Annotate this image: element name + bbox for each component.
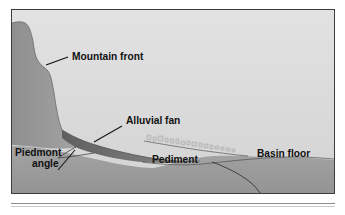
label-piedmont-angle-line1: Piedmont [15, 147, 62, 158]
figure-page: Mountain front Alluvial fan Piedmont ang… [0, 0, 345, 215]
label-pediment: Pediment [152, 154, 198, 165]
caption-rule-bottom [11, 206, 335, 207]
cross-section-illustration: Mountain front Alluvial fan Piedmont ang… [12, 10, 334, 193]
label-basin-floor: Basin floor [257, 148, 310, 159]
label-alluvial-fan: Alluvial fan [126, 115, 180, 126]
caption-rule-top [11, 203, 335, 204]
figure-frame: Mountain front Alluvial fan Piedmont ang… [11, 9, 335, 194]
label-piedmont-angle-line2: angle [32, 158, 59, 169]
label-mountain-front: Mountain front [72, 51, 144, 62]
